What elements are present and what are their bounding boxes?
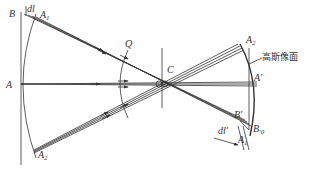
- label-B0-prime: B′0: [253, 123, 265, 136]
- ray-bundle-axial: [21, 81, 257, 87]
- ray-bundle-lower: [34, 44, 244, 153]
- label-A2: A2: [37, 149, 48, 162]
- label-gauss-image-plane: 高斯像面: [262, 51, 298, 62]
- optics-diagram: B dl A1 A A2 Q C A2 高斯像面 A' B' B′0 dl' A…: [0, 0, 310, 169]
- label-C: C: [167, 64, 174, 75]
- label-A: A: [5, 79, 13, 90]
- label-A2-prime: A2: [245, 34, 256, 47]
- label-A1-prime: A1: [237, 134, 248, 147]
- ray-bundle-upper: [24, 14, 251, 126]
- label-A-prime: A': [253, 72, 263, 83]
- gauss-leader-line: [249, 58, 262, 64]
- label-dl-prime: dl': [218, 125, 229, 136]
- label-B: B: [9, 8, 15, 19]
- label-B-prime: B': [234, 109, 243, 120]
- label-dl: dl: [27, 3, 35, 14]
- label-Q: Q: [125, 38, 133, 49]
- dlp-arrow: [214, 138, 238, 145]
- object-sphere-arc: [23, 14, 36, 158]
- ray-diagram-svg: B dl A1 A A2 Q C A2 高斯像面 A' B' B′0 dl' A…: [0, 0, 310, 169]
